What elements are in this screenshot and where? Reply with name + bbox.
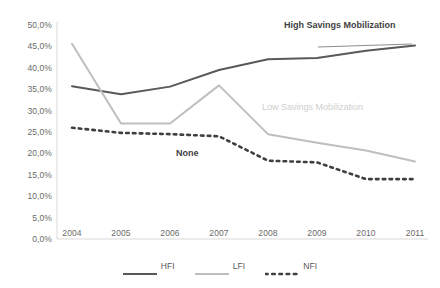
x-axis-tick-label: 2010 — [346, 228, 386, 238]
chart-legend: HFILFINFI — [0, 261, 440, 271]
y-axis-tick-label: 45,0% — [10, 41, 52, 51]
series-line-nfi — [72, 128, 415, 179]
x-axis-tick-label: 2005 — [101, 228, 141, 238]
plot-area — [0, 0, 440, 288]
legend-label: LFI — [233, 261, 246, 271]
x-axis-tick-label: 2011 — [395, 228, 435, 238]
y-axis-tick-label: 10,0% — [10, 191, 52, 201]
series-layer — [72, 44, 415, 179]
y-axis-tick-label: 50,0% — [10, 20, 52, 30]
annotation-none: None — [176, 148, 199, 158]
series-line-hfi — [72, 46, 415, 95]
annotation-high-savings: High Savings Mobilization — [284, 20, 396, 30]
y-axis-tick-label: 35,0% — [10, 84, 52, 94]
x-axis-tick-label: 2004 — [52, 228, 92, 238]
legend-item-lfi[interactable]: LFI — [195, 261, 246, 271]
x-axis-tick-label: 2006 — [150, 228, 190, 238]
x-axis-tick-label: 2008 — [248, 228, 288, 238]
y-axis-tick-label: 40,0% — [10, 63, 52, 73]
y-axis-tick-label: 15,0% — [10, 170, 52, 180]
annotation-low-savings: Low Savings Mobilization — [262, 102, 363, 112]
legend-item-hfi[interactable]: HFI — [123, 261, 175, 271]
x-axis-tick-label: 2009 — [297, 228, 337, 238]
legend-swatch-nfi — [265, 263, 299, 269]
legend-swatch-lfi — [195, 263, 229, 269]
y-axis-tick-label: 0,0% — [10, 234, 52, 244]
legend-label: NFI — [303, 261, 317, 271]
line-chart: 0,0%5,0%10,0%15,0%20,0%25,0%30,0%35,0%40… — [0, 0, 440, 288]
x-axis-tick-label: 2007 — [199, 228, 239, 238]
legend-item-nfi[interactable]: NFI — [265, 261, 317, 271]
series-line-lfi — [72, 44, 415, 162]
y-axis-tick-label: 30,0% — [10, 106, 52, 116]
legend-swatch-hfi — [123, 263, 157, 269]
axis-group — [57, 22, 428, 239]
legend-label: HFI — [161, 261, 175, 271]
y-axis-tick-label: 5,0% — [10, 213, 52, 223]
y-axis-tick-label: 20,0% — [10, 148, 52, 158]
y-axis-tick-label: 25,0% — [10, 127, 52, 137]
